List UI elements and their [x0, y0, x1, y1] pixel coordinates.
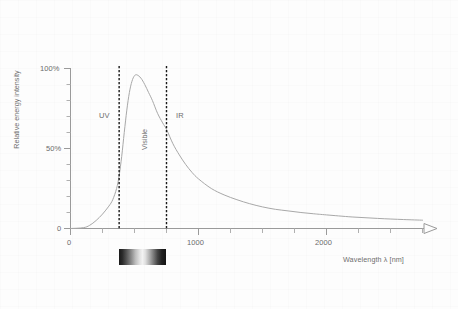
spectral-irradiance-curve	[71, 75, 423, 229]
x-axis-minor-ticks	[103, 229, 423, 234]
x-tick-label-1000: 1000	[187, 238, 204, 247]
x-axis-title: Wavelength λ [nm]	[343, 255, 404, 264]
y-tick-label-100: 100%	[40, 64, 60, 73]
y-tick-label-50: 50%	[46, 144, 61, 153]
spectral-irradiance-chart: 100% 50% 0 0 1000 2000 Relative energy i…	[0, 0, 458, 309]
x-tick-label-2000: 2000	[315, 238, 332, 247]
uv-region-label: UV	[99, 111, 110, 120]
visible-spectrum-bar	[119, 249, 166, 265]
y-axis-major-ticks	[64, 69, 71, 229]
y-tick-label-0: 0	[57, 224, 61, 233]
ir-region-label: IR	[176, 111, 184, 120]
x-tick-label-0: 0	[67, 238, 71, 247]
visible-region-label: Visible	[140, 119, 149, 161]
x-axis-arrow-icon	[424, 224, 437, 234]
y-axis-title: Relative energy intensity	[12, 67, 21, 153]
x-axis-major-ticks	[71, 229, 327, 236]
